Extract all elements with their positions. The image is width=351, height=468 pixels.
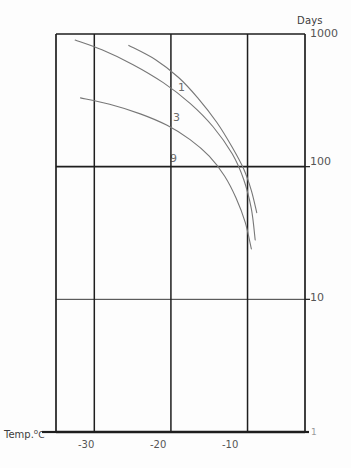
vertical-gridlines (94, 34, 247, 432)
plot-frame (42, 34, 309, 432)
plot-area (0, 0, 351, 468)
data-curves (75, 40, 257, 249)
curve-1 (129, 45, 257, 212)
curve-9 (81, 98, 252, 249)
chart-page: Days 1000 100 10 1 -30 -20 -10 Temp.oC 1… (0, 0, 351, 468)
